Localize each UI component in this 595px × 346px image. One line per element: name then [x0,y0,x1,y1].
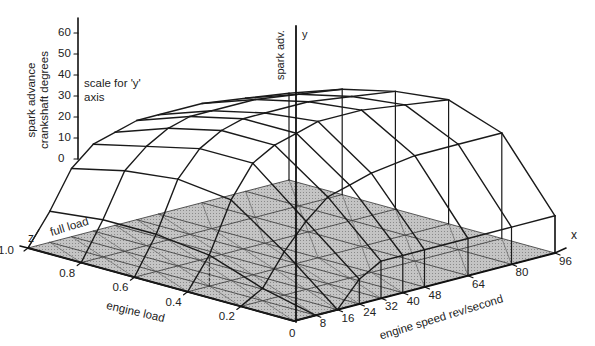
x-tick-label: 32 [385,300,398,312]
y-scale-note: scale for 'y' axis [84,76,144,104]
x-tick-label: 24 [363,306,376,318]
y-axis-title: spark adv. [274,30,286,80]
y-scale-tick-label: 20 [58,110,71,122]
x-tick-label: 80 [516,266,529,278]
x-tick-label: 0 [289,327,295,339]
z-axis-letter: z [28,231,34,245]
z-tick-label: 0.6 [112,281,128,293]
z-tick-label: 1.0 [0,244,14,256]
z-tick-label: 0.8 [59,267,75,279]
x-tick-label: 64 [472,278,485,290]
y-scale-tick-label: 10 [58,131,71,143]
x-tick-label: 96 [559,255,572,267]
z-tick-label: 0.4 [166,296,182,308]
y-scale-tick-label: 0 [58,152,64,164]
x-tick-label: 48 [429,289,442,301]
y-scale-label: spark advance crankshaft degrees [25,35,51,165]
x-tick-label: 16 [342,312,355,324]
spark-advance-surface-chart [0,0,595,346]
y-scale-bar [74,18,78,159]
y-scale-tick-label: 40 [58,68,71,80]
z-tick-label: 0.2 [219,310,235,322]
y-scale-tick-label: 60 [58,26,71,38]
y-scale-tick-label: 30 [58,89,71,101]
x-tick-label: 40 [407,295,420,307]
y-axis-letter: y [302,28,308,40]
x-axis-letter: x [571,228,577,242]
y-scale-tick-label: 50 [58,47,71,59]
x-tick-label: 8 [320,317,326,329]
